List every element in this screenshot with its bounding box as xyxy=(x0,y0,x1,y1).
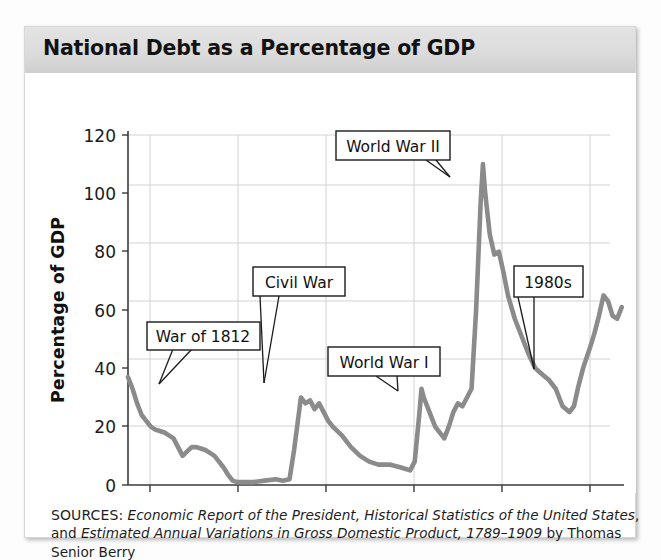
chart-title-bar: National Debt as a Percentage of GDP xyxy=(25,27,635,73)
annotation-war-of-1812[interactable]: War of 1812 xyxy=(147,322,260,384)
annotation-label: 1980s xyxy=(524,274,572,292)
annotation-world-war-i[interactable]: World War I xyxy=(328,347,440,391)
page-title: National Debt as a Percentage of GDP xyxy=(43,36,475,60)
annotation-label: Civil War xyxy=(265,274,334,292)
y-tick-120: 120 xyxy=(84,126,116,146)
annotation-label: War of 1812 xyxy=(156,328,250,346)
y-tick-0: 0 xyxy=(105,476,116,493)
sources-part-3: Estimated Annual Variations in Gross Dom… xyxy=(81,525,542,541)
plot-panel: 120 100 80 60 40 20 0 Percentage of GDP xyxy=(26,73,636,493)
annotation-1980s[interactable]: 1980s xyxy=(514,266,583,369)
sources-part-1: Economic Report of the President, Histor… xyxy=(128,507,635,523)
line-chart: 120 100 80 60 40 20 0 Percentage of GDP xyxy=(26,73,636,493)
sources-label: SOURCES: xyxy=(51,507,123,523)
annotation-label: World War II xyxy=(346,138,440,156)
axes xyxy=(128,131,624,485)
vertical-gridlines xyxy=(150,135,590,485)
y-tick-40: 40 xyxy=(94,359,116,379)
y-tick-100: 100 xyxy=(84,184,116,204)
x-tickmarks xyxy=(150,485,590,492)
y-axis-tick-labels: 120 100 80 60 40 20 0 xyxy=(84,126,116,493)
y-tick-20: 20 xyxy=(94,417,116,437)
chart-card: National Debt as a Percentage of GDP xyxy=(24,26,636,538)
figure-container: National Debt as a Percentage of GDP xyxy=(0,0,661,560)
y-tick-60: 60 xyxy=(94,301,116,321)
y-tick-80: 80 xyxy=(94,242,116,262)
annotation-label: World War I xyxy=(339,354,428,372)
y-axis-title: Percentage of GDP xyxy=(48,217,68,403)
annotation-world-war-ii[interactable]: World War II xyxy=(336,131,450,177)
y-tickmarks xyxy=(122,135,128,485)
sources-note: SOURCES: Economic Report of the Presiden… xyxy=(51,506,651,560)
